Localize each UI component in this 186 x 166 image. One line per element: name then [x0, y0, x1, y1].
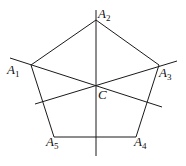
pentagon-diagram: A1A2A3A4A5C	[0, 0, 186, 166]
symmetry-axes	[10, 10, 177, 156]
vertex-label-a2: A2	[97, 6, 110, 23]
vertex-label-a4: A4	[133, 134, 147, 151]
vertex-label-a1: A1	[6, 62, 19, 79]
pentagon-outline	[31, 20, 159, 137]
pentagon-edges	[31, 20, 159, 137]
vertex-labels: A1A2A3A4A5C	[6, 6, 172, 151]
center-label-c: C	[98, 87, 107, 102]
axis-a1-c-line	[10, 58, 162, 107]
vertex-label-a3: A3	[158, 65, 172, 82]
